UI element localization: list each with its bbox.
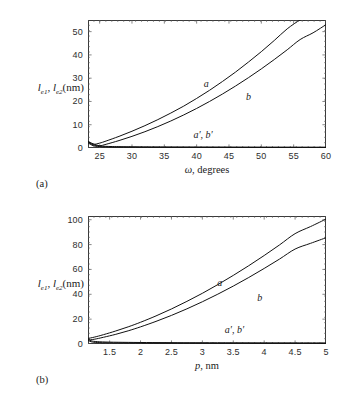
- y-label-unit: (nm): [63, 277, 84, 289]
- x-tick-label: 4.5: [289, 347, 302, 357]
- plot-curves-b: [88, 216, 326, 344]
- y-tick-label: 20: [73, 96, 83, 106]
- x-tick-label: 25: [94, 151, 104, 161]
- chart-panel-a: le1, le2(nm) 253035404550556001020304050…: [0, 0, 342, 197]
- y-label-mid: , l: [47, 277, 56, 289]
- panel-tag-b: (b): [36, 374, 48, 385]
- y-tick-label: 10: [73, 120, 83, 130]
- y-tick-label: 50: [73, 27, 83, 37]
- curve-b: [88, 238, 326, 340]
- x-tick-label: 5: [323, 347, 328, 357]
- figure-container: le1, le2(nm) 253035404550556001020304050…: [0, 0, 342, 395]
- x-tick-label: 40: [191, 151, 201, 161]
- x-tick-label: 3.5: [227, 347, 240, 357]
- x-axis-label-b: p, nm: [88, 360, 326, 371]
- y-tick-label: 0: [78, 339, 83, 349]
- x-tick-label: 55: [288, 151, 298, 161]
- panel-tag-a: (a): [36, 178, 48, 189]
- x-tick-label: 4: [262, 347, 267, 357]
- x-label-unit: , degrees: [192, 164, 229, 175]
- curve-annotation: a′, b′: [225, 325, 244, 335]
- curve-annotation: a: [204, 79, 209, 89]
- y-tick-label: 60: [73, 264, 83, 274]
- y-tick-label: 80: [73, 240, 83, 250]
- x-tick-label: 35: [159, 151, 169, 161]
- curve-annotation: b: [246, 92, 251, 102]
- y-tick-label: 100: [67, 215, 83, 225]
- plot-area-b: 1.522.533.544.55020406080100aba′, b′: [88, 216, 326, 344]
- x-tick-label: 1.5: [103, 347, 116, 357]
- y-tick-label: 40: [73, 289, 83, 299]
- x-tick-label: 50: [256, 151, 266, 161]
- curve-annotation: b: [257, 293, 262, 303]
- x-tick-label: 3: [200, 347, 205, 357]
- y-label-sub2: e2: [56, 88, 63, 96]
- plot-area-a: 253035404550556001020304050aba′, b′: [88, 20, 326, 148]
- x-tick-label: 2.5: [165, 347, 178, 357]
- x-axis-label-a: ω, degrees: [88, 164, 326, 175]
- y-tick-label: 0: [78, 143, 83, 153]
- x-label-unit: , nm: [200, 360, 219, 371]
- x-tick-label: 2: [138, 347, 143, 357]
- curve-a: [88, 20, 304, 144]
- curve-a: [88, 219, 326, 338]
- y-tick-label: 30: [73, 73, 83, 83]
- x-tick-label: 30: [127, 151, 137, 161]
- curve-annotation: a: [217, 278, 222, 288]
- y-tick-label: 40: [73, 50, 83, 60]
- x-label-var: ω: [185, 164, 192, 175]
- curve-annotation: a′, b′: [193, 130, 212, 140]
- y-label-mid: , l: [47, 81, 56, 93]
- y-tick-label: 20: [73, 314, 83, 324]
- x-tick-label: 45: [224, 151, 234, 161]
- y-label-sub2: e2: [56, 284, 63, 292]
- y-axis-label-a: le1, le2(nm): [4, 82, 84, 96]
- chart-panel-b: le1, le2(nm) 1.522.533.544.5502040608010…: [0, 196, 342, 393]
- x-tick-label: 60: [321, 151, 331, 161]
